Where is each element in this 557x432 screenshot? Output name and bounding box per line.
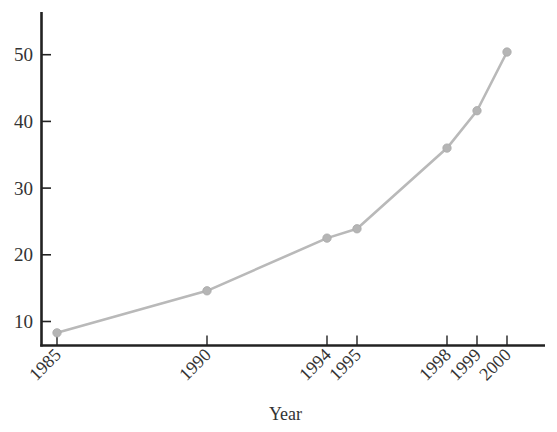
- series-line: [57, 52, 507, 333]
- data-point: [443, 144, 451, 152]
- series-markers: [53, 48, 511, 337]
- y-axis: 1020304050: [14, 12, 51, 347]
- y-tick-label: 50: [14, 44, 33, 65]
- x-tick-label: 1995: [325, 345, 365, 385]
- data-point: [53, 329, 61, 337]
- x-tick-label: 1985: [25, 345, 65, 385]
- data-point: [323, 234, 331, 242]
- x-axis: 1985199019941995199819992000: [25, 336, 545, 385]
- x-axis-title: Year: [269, 404, 302, 424]
- x-tick-label: 1999: [445, 345, 485, 385]
- x-tick-label: 1990: [175, 345, 215, 385]
- y-tick-label: 20: [14, 244, 33, 265]
- line-chart: 1020304050 1985199019941995199819992000 …: [0, 0, 557, 432]
- x-ticks: 1985199019941995199819992000: [25, 336, 515, 385]
- x-tick-label: 1994: [295, 345, 335, 385]
- data-point: [473, 107, 481, 115]
- data-point: [353, 225, 361, 233]
- y-tick-label: 40: [14, 111, 33, 132]
- x-tick-label: 1998: [415, 345, 455, 385]
- data-series: [53, 48, 511, 337]
- data-point: [203, 287, 211, 295]
- x-tick-label: 2000: [475, 345, 515, 385]
- y-tick-label: 30: [14, 178, 33, 199]
- y-ticks: 1020304050: [14, 44, 51, 332]
- data-point: [503, 48, 511, 56]
- y-tick-label: 10: [14, 311, 33, 332]
